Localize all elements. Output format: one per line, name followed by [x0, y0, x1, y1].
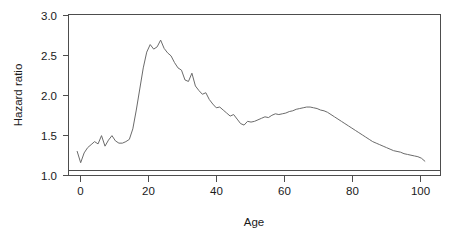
hazard-ratio-chart-figure: 1.0 1.5 2.0 2.5 3.0 0 20 40 60 80 100 Ag…: [0, 0, 457, 242]
x-tick-label: 80: [346, 185, 359, 197]
x-tick-label: 60: [278, 185, 291, 197]
x-tick-label: 0: [77, 185, 83, 197]
x-tick-label: 40: [210, 185, 223, 197]
y-tick-label: 1.5: [41, 130, 57, 142]
y-tick-label: 2.0: [41, 90, 57, 102]
y-tick-label: 1.0: [41, 170, 57, 182]
x-axis-title: Age: [244, 216, 264, 228]
plot-svg: 1.0 1.5 2.0 2.5 3.0 0 20 40 60 80 100 Ag…: [0, 0, 457, 242]
y-tick-label: 3.0: [41, 10, 57, 22]
y-tick-label: 2.5: [41, 50, 57, 62]
x-tick-label: 20: [142, 185, 155, 197]
y-axis-title: Hazard ratio: [12, 64, 24, 127]
x-tick-label: 100: [411, 185, 430, 197]
